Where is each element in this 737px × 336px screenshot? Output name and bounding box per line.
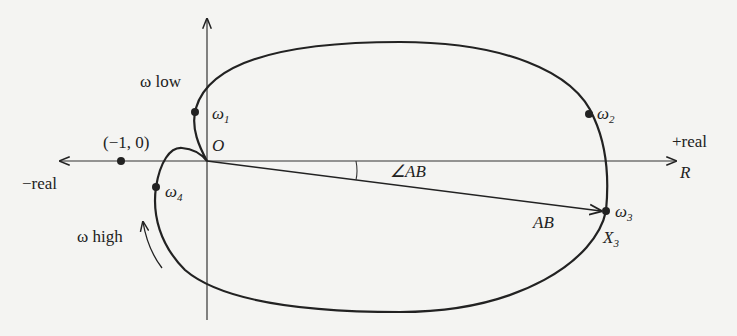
omega3-label: ω3 [615, 202, 633, 223]
polar-curve [155, 42, 607, 312]
positive-real-label: +real [672, 132, 707, 151]
omega3-dot [602, 207, 610, 215]
real-axis-symbol: R [679, 163, 691, 182]
critical-point-label: (−1, 0) [103, 133, 149, 152]
omega1-label: ω1 [212, 104, 230, 125]
omega1-dot [191, 108, 199, 116]
omega-high-label: ω high [77, 227, 123, 246]
omega-low-label: ω low [140, 72, 182, 91]
vector-magnitude-label: AB [532, 213, 554, 232]
critical-point-dot [117, 157, 125, 165]
angle-label: ∠AB [390, 162, 426, 181]
angle-arc [356, 161, 357, 180]
polar-plot-diagram: (−1, 0) O −real +real R ω low ω high ω1 … [0, 0, 737, 336]
x3-label: X3 [602, 228, 619, 249]
omega4-dot [152, 183, 160, 191]
negative-real-label: −real [22, 174, 57, 193]
omega4-label: ω4 [165, 182, 183, 203]
omega2-label: ω2 [597, 104, 615, 125]
omega2-dot [585, 110, 593, 118]
origin-label: O [212, 136, 224, 155]
